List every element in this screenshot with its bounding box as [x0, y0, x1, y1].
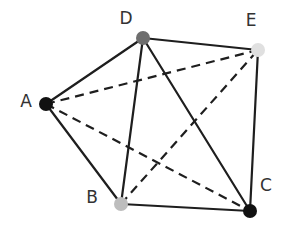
edge-a-c: [46, 104, 250, 211]
edge-a-d: [46, 38, 143, 104]
edge-e-c: [250, 50, 258, 211]
edge-a-e: [46, 50, 258, 104]
node-label-a: A: [20, 91, 32, 111]
nodes-layer: [39, 31, 265, 218]
edge-b-e: [121, 50, 258, 204]
edge-d-b: [121, 38, 143, 204]
node-a: [39, 97, 53, 111]
edges-layer: [46, 38, 258, 211]
node-label-c: C: [260, 175, 272, 195]
edge-d-c: [143, 38, 250, 211]
edge-b-a: [46, 104, 121, 204]
edge-d-e: [143, 38, 258, 50]
node-label-d: D: [119, 8, 132, 28]
node-label-e: E: [246, 10, 257, 30]
node-d: [136, 31, 150, 45]
node-e: [251, 43, 265, 57]
graph-diagram: ADEBC: [0, 0, 288, 227]
node-c: [243, 204, 257, 218]
node-b: [114, 197, 128, 211]
node-label-b: B: [86, 187, 98, 207]
edge-c-b: [121, 204, 250, 211]
